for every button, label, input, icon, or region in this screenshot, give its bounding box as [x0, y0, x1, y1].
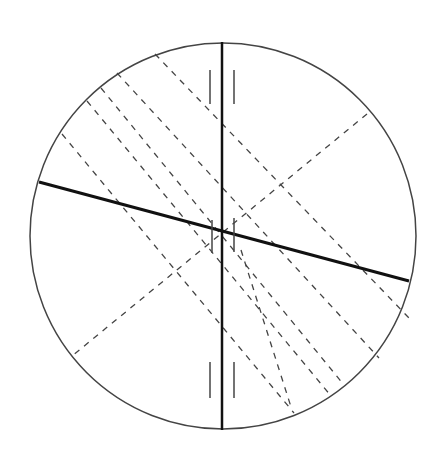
dashed-line: [62, 134, 294, 413]
dashed-line: [87, 101, 331, 396]
dashed-line: [155, 54, 409, 318]
geometry-diagram: [0, 0, 443, 450]
dashed-line: [72, 114, 367, 356]
thick-diagonal-line: [39, 182, 409, 281]
dashed-line: [117, 73, 379, 358]
dashed-line: [241, 250, 292, 410]
